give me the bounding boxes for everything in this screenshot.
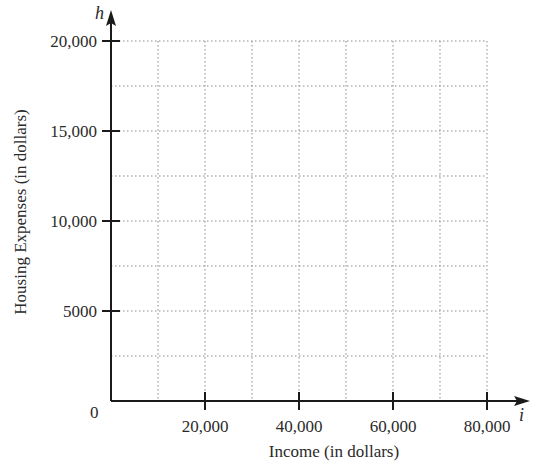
y-tick-label: 10,000 — [50, 212, 97, 231]
axes — [106, 10, 530, 406]
x-variable-label: i — [519, 405, 524, 425]
x-tick-label: 20,000 — [182, 417, 229, 436]
x-tick-label: 40,000 — [276, 417, 323, 436]
origin-label: 0 — [90, 403, 99, 422]
tick-labels: 20,00040,00060,00080,000500010,00015,000… — [50, 32, 510, 436]
y-axis-title: Housing Expenses (in dollars) — [11, 109, 30, 314]
chart: 20,00040,00060,00080,000500010,00015,000… — [0, 0, 539, 469]
grid — [111, 41, 487, 401]
y-tick-label: 15,000 — [50, 122, 97, 141]
y-tick-label: 20,000 — [50, 32, 97, 51]
x-tick-label: 60,000 — [370, 417, 417, 436]
y-tick-label: 5000 — [63, 302, 97, 321]
ticks — [102, 41, 487, 410]
x-tick-label: 80,000 — [464, 417, 511, 436]
x-axis-title: Income (in dollars) — [269, 442, 399, 461]
y-variable-label: h — [95, 3, 104, 23]
